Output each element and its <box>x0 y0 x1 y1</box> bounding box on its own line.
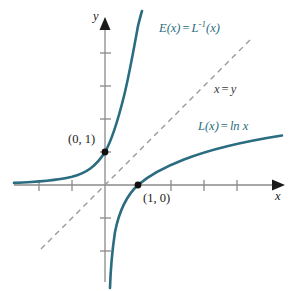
logarithm-curve-label: L(x)=ln x <box>198 120 248 133</box>
graph-canvas <box>0 0 296 291</box>
identity-line-label: x=y <box>214 83 236 96</box>
point-0-1-label: (0, 1) <box>68 133 95 146</box>
identity-label-op: = <box>220 82 231 96</box>
math-figure: E(x)=L-1(x) x=y L(x)=ln x (0, 1) (1, 0) … <box>0 0 296 291</box>
exp-label-inv-exponent: -1 <box>199 19 207 29</box>
identity-label-rhs: y <box>231 82 237 96</box>
identity-label-lhs: x <box>214 82 220 96</box>
point-1-0-dot <box>135 182 142 189</box>
exponential-curve-label: E(x)=L-1(x) <box>159 22 220 35</box>
log-label-fn: L(x) <box>198 119 219 133</box>
exp-label-inv-arg: (x) <box>206 21 220 35</box>
point-1-0-label: (1, 0) <box>143 192 170 205</box>
log-label-rhs: ln x <box>230 119 248 133</box>
axis-group <box>14 17 285 282</box>
log-label-op: = <box>219 119 230 133</box>
y-axis-label: y <box>93 10 99 23</box>
logarithm-curve <box>110 136 282 289</box>
exp-label-op: = <box>181 21 192 35</box>
x-axis-label: x <box>275 190 281 203</box>
exponential-curve <box>14 11 142 183</box>
exp-label-fn: E(x) <box>159 21 181 35</box>
point-0-1-dot <box>102 149 109 156</box>
y-axis-arrowhead <box>100 17 111 30</box>
exp-label-inv-base: L <box>192 21 199 35</box>
